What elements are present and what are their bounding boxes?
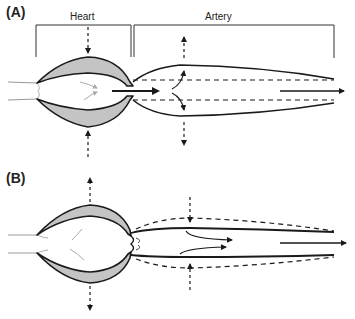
diagram-drawing	[0, 0, 355, 319]
panel-a	[8, 25, 344, 157]
panel-b	[8, 178, 346, 310]
artery-wall-lower	[133, 100, 334, 116]
heart-wall-upper	[37, 57, 133, 86]
heart-bracket	[36, 25, 131, 57]
artery-bracket	[134, 25, 334, 58]
artery-wall-upper-b	[131, 228, 334, 233]
heart-wall-lower	[37, 96, 133, 127]
artery-wall-lower-b	[131, 255, 334, 257]
heart-wall-upper-b	[37, 205, 131, 236]
heart-wall-lower-b	[37, 252, 131, 283]
heart-artery-diagram: (A) Heart Artery (B)	[0, 0, 355, 319]
